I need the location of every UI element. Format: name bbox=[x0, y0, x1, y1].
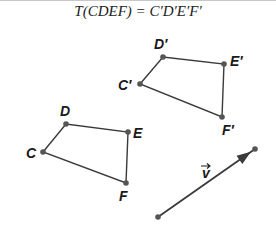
vector-label: v bbox=[202, 165, 211, 181]
vertex-label: F′ bbox=[222, 122, 235, 138]
image-outline bbox=[140, 57, 224, 117]
quadrilateral-cdef: CDEF bbox=[26, 103, 143, 204]
translation-vector: v bbox=[155, 146, 258, 220]
vertex-point bbox=[123, 180, 129, 186]
vector-end-point bbox=[252, 146, 258, 152]
vertex-point bbox=[160, 54, 166, 60]
vertex-label: F bbox=[119, 188, 128, 204]
translation-diagram: CDEF C′D′E′F′ v bbox=[0, 0, 276, 226]
vertex-label: E bbox=[133, 125, 143, 141]
cdef-outline bbox=[43, 124, 128, 183]
vertex-point bbox=[125, 129, 131, 135]
vertex-label: D′ bbox=[154, 36, 168, 52]
arrowhead-icon bbox=[237, 152, 251, 164]
vertex-point bbox=[137, 81, 143, 87]
vertex-label: C′ bbox=[118, 77, 132, 93]
vertex-point bbox=[63, 121, 69, 127]
vertex-point bbox=[221, 61, 227, 67]
vertex-label: E′ bbox=[230, 53, 243, 69]
vertex-label: D bbox=[60, 103, 70, 119]
vector-start-point bbox=[155, 214, 161, 220]
vertex-point bbox=[219, 114, 225, 120]
vertex-point bbox=[40, 149, 46, 155]
quadrilateral-c-prime-d-prime-e-prime-f-prime: C′D′E′F′ bbox=[118, 36, 243, 138]
vertex-label: C bbox=[26, 145, 37, 161]
